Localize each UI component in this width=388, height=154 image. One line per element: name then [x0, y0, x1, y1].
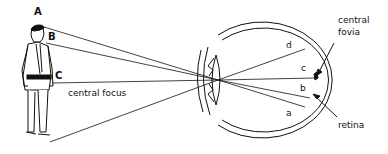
ray-a [44, 27, 218, 80]
label-point-b: B [48, 31, 56, 42]
ray-b-inner [218, 80, 310, 98]
ray-a-inner [218, 80, 305, 107]
light-rays [44, 27, 315, 142]
label-central-focus: central focus [68, 88, 127, 98]
label-retina-b: b [300, 83, 306, 93]
label-central-fovia-1: central [338, 15, 369, 25]
label-point-c: C [55, 70, 62, 81]
label-retina-c: c [301, 63, 306, 73]
ray-c [52, 80, 218, 83]
label-retina: retina [338, 120, 364, 130]
label-retina-a: a [286, 108, 292, 118]
cornea [197, 50, 203, 112]
label-point-a: A [34, 6, 42, 17]
ray-central [218, 78, 315, 80]
label-central-fovia-2: fovia [338, 27, 360, 37]
retina-arrow [315, 96, 337, 117]
ray-b [46, 43, 218, 80]
eye-diagram: A B C central focus d c b a central fovi… [0, 0, 388, 154]
sclera-inner [222, 28, 329, 132]
label-retina-d: d [286, 40, 292, 50]
ray-d [218, 49, 305, 80]
